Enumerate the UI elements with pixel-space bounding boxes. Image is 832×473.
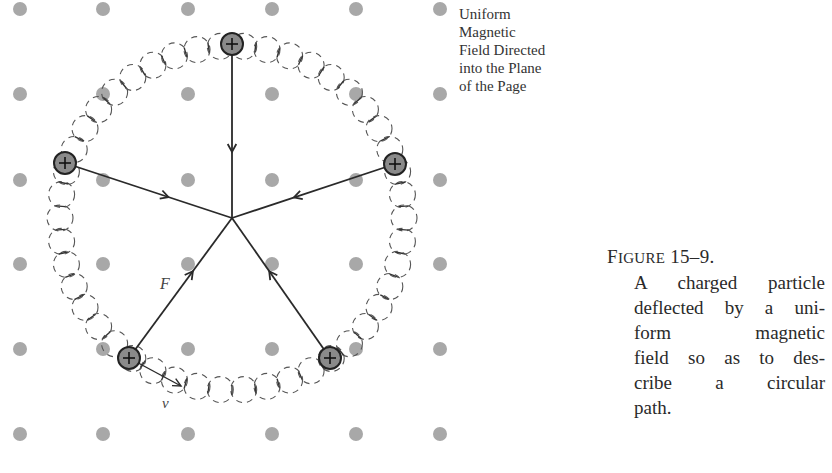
field-dot [433,257,447,271]
field-dot [181,342,195,356]
field-dot [265,87,279,101]
field-dot [433,427,447,441]
path-loop [277,43,303,69]
caption-body: A charged particle deflected by a uni- f… [634,270,825,420]
caption-line: A charged particle [634,270,825,295]
path-loop [86,314,112,340]
field-label-line: Magnetic [459,23,545,41]
positive-charge [384,153,406,175]
caption-line: field so as to des- [634,345,825,370]
path-loop [254,37,280,63]
field-dot [265,342,279,356]
field-dot [181,2,195,16]
figure-number: 15–9. [665,246,714,267]
field-label-line: of the Page [459,77,545,95]
path-loop [389,182,415,208]
path-loop [254,373,280,399]
field-dot [349,87,363,101]
figure-smallcaps: IGURE [618,250,665,266]
field-dot [181,427,195,441]
field-dot [265,173,279,187]
field-dot [349,2,363,16]
caption-line: cribe a circular [634,370,825,395]
path-loop [86,97,112,123]
path-loop [277,367,303,393]
field-dot [433,342,447,356]
path-loop [120,65,146,91]
magnetic-deflection-diagram: F v [0,0,470,473]
field-label-line: Field Directed [459,41,545,59]
field-dot [13,427,27,441]
path-loop [366,294,392,320]
field-dot [13,173,27,187]
force-label: F [159,275,170,292]
path-tick [399,206,409,207]
field-dot [13,342,27,356]
path-tick [399,229,409,230]
field-dot [433,2,447,16]
path-tick [103,332,110,339]
field-dot [13,257,27,271]
path-loop [161,367,187,393]
field-dot [349,427,363,441]
path-loop [47,205,73,231]
force-vectors [65,44,395,358]
path-loop [207,377,233,403]
path-loop [49,228,75,254]
positive-charge [221,33,243,55]
path-tick [120,81,126,89]
positive-charge [319,347,341,369]
field-label-line: into the Plane [459,59,545,77]
force-line [232,218,330,358]
field-dot [265,427,279,441]
field-dot [96,257,110,271]
path-loop [161,43,187,69]
path-loop [184,37,210,63]
field-dot [13,87,27,101]
field-dot [433,173,447,187]
path-loop [49,182,75,208]
field-label-line: Uniform [459,5,545,23]
field-dot [433,87,447,101]
caption-line: path. [634,395,825,420]
path-loop [318,65,344,91]
field-dot [181,87,195,101]
field-dot [265,2,279,16]
positive-charge [118,347,140,369]
path-loop [231,377,257,403]
field-dot [13,2,27,16]
field-dot [349,257,363,271]
field-direction-label: Uniform Magnetic Field Directed into the… [459,5,545,95]
path-loop [389,228,415,254]
field-dot [181,257,195,271]
caption-line: form magnetic [634,320,825,345]
field-dot [96,427,110,441]
path-loop [184,373,210,399]
path-loop [53,251,79,277]
positive-charge [54,152,76,174]
figure-prefix: F [607,246,618,267]
positive-charges [54,33,406,369]
force-line [65,163,232,218]
figure-caption: FIGURE 15–9. A charged particle deflecte… [607,245,825,420]
force-line [129,218,232,358]
field-dot [181,173,195,187]
path-loop [352,314,378,340]
caption-line: deflected by a uni- [634,295,825,320]
figure-title: FIGURE 15–9. [607,245,825,270]
velocity-label: v [162,395,169,411]
path-loop [391,205,417,231]
field-dot [96,2,110,16]
force-line [232,164,395,218]
